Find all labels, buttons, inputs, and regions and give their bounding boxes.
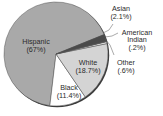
leader-asian	[103, 24, 113, 33]
value-asian: (2.1%)	[110, 12, 131, 21]
value-white: (18.7%)	[75, 66, 100, 75]
value-hispanic: (67%)	[26, 45, 45, 54]
value-other: (.6%)	[117, 66, 134, 75]
leader-american-indian	[105, 33, 118, 37]
value-black: (11.4%)	[57, 91, 82, 100]
value-american-indian: (.2%)	[128, 43, 145, 52]
pie-chart: Hispanic (67%) Black (11.4%) White (18.7…	[0, 0, 163, 116]
